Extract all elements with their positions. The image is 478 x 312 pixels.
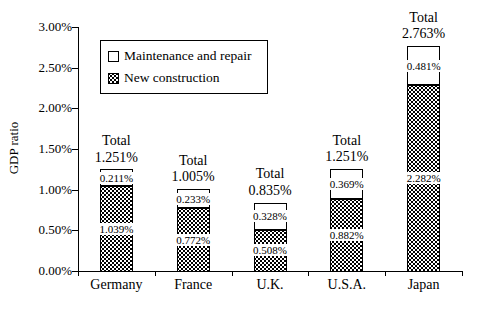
legend-item-maintenance: Maintenance and repair <box>108 45 267 67</box>
total-label: Total1.251% <box>95 133 138 167</box>
total-label-line: Total <box>402 10 445 27</box>
legend-label: New construction <box>124 70 220 86</box>
stacked-bar-chart: GDP ratio 0.00%0.50%1.00%1.50%2.00%2.50%… <box>0 0 478 312</box>
total-label-line: Total <box>172 153 215 170</box>
y-tick-mark <box>72 230 78 231</box>
y-tick-label: 2.50% <box>38 60 72 76</box>
x-tick-mark <box>308 271 309 276</box>
y-tick-label: 1.50% <box>38 141 72 157</box>
category-label-germany: Germany <box>90 277 142 293</box>
segment-value-label: 0.508% <box>253 244 287 256</box>
segment-value-label: 0.481% <box>407 60 441 72</box>
y-axis-title: GDP ratio <box>6 122 22 175</box>
y-tick-label: 2.00% <box>38 100 72 116</box>
total-label-line: 1.005% <box>172 169 215 186</box>
total-label: Total1.251% <box>325 133 368 167</box>
y-tick-label: 3.00% <box>38 19 72 35</box>
plain-swatch-icon <box>108 51 119 62</box>
total-label: Total1.005% <box>172 153 215 187</box>
total-label: Total0.835% <box>248 166 291 200</box>
total-label-line: Total <box>248 166 291 183</box>
category-label-uk: U.K. <box>256 277 283 293</box>
y-axis-line <box>78 27 79 272</box>
segment-value-label: 1.039% <box>99 223 133 235</box>
y-tick-mark <box>72 68 78 69</box>
x-tick-mark <box>462 271 463 276</box>
x-tick-mark <box>232 271 233 276</box>
x-tick-mark <box>385 271 386 276</box>
segment-value-label: 0.369% <box>330 178 364 190</box>
y-tick-mark <box>72 27 78 28</box>
segment-value-label: 0.211% <box>100 172 134 184</box>
total-label-line: 1.251% <box>325 149 368 166</box>
category-label-usa: U.S.A. <box>328 277 367 293</box>
category-label-france: France <box>174 277 212 293</box>
dotted-pattern-swatch-icon <box>108 73 119 84</box>
y-tick-mark <box>72 190 78 191</box>
total-label: Total2.763% <box>402 10 445 44</box>
legend-item-new: New construction <box>108 67 267 89</box>
segment-value-label: 0.328% <box>253 210 287 222</box>
segment-value-label: 0.772% <box>176 234 210 246</box>
segment-value-label: 0.233% <box>176 193 210 205</box>
y-tick-mark <box>72 149 78 150</box>
x-tick-mark <box>155 271 156 276</box>
total-label-line: Total <box>325 133 368 150</box>
segment-value-label: 2.282% <box>407 172 441 184</box>
segment-value-label: 0.882% <box>330 229 364 241</box>
y-tick-label: 0.00% <box>38 263 72 279</box>
x-tick-mark <box>78 271 79 276</box>
y-tick-label: 0.50% <box>38 222 72 238</box>
y-tick-label: 1.00% <box>38 182 72 198</box>
category-label-japan: Japan <box>408 277 440 293</box>
legend: Maintenance and repairNew construction <box>100 40 268 94</box>
y-tick-mark <box>72 108 78 109</box>
total-label-line: 0.835% <box>248 183 291 200</box>
total-label-line: Total <box>95 133 138 150</box>
legend-label: Maintenance and repair <box>124 48 251 64</box>
total-label-line: 1.251% <box>95 150 138 167</box>
total-label-line: 2.763% <box>402 26 445 43</box>
